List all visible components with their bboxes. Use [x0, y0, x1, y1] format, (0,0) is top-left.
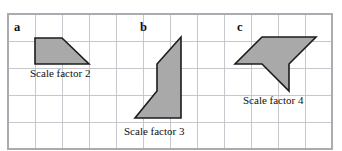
shape-letter-a: a [14, 20, 21, 34]
shape-letter-c: c [237, 20, 243, 34]
shape-letter-b: b [140, 20, 147, 34]
worksheet-figure: abc Scale factor 2Scale factor 3Scale fa… [0, 0, 342, 151]
figure-canvas: abc Scale factor 2Scale factor 3Scale fa… [0, 0, 342, 151]
scale-factor-label-b: Scale factor 3 [124, 125, 185, 137]
scale-factor-label-c: Scale factor 4 [243, 94, 304, 106]
scale-factor-label-a: Scale factor 2 [30, 67, 90, 79]
